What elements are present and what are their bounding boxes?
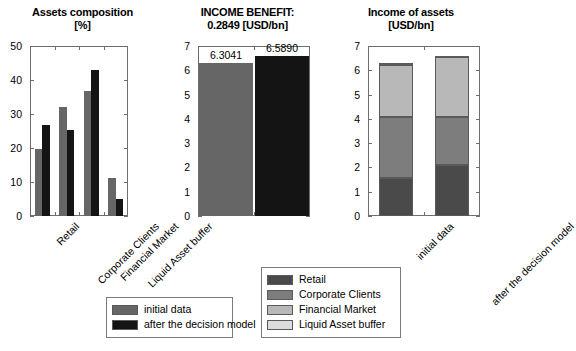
title-line-1: Income of assets	[332, 6, 490, 19]
title-line-2: [USD/bn]	[332, 19, 490, 32]
assets-composition-ytick-label: 0	[16, 210, 26, 222]
assets-composition-xtick-mark	[55, 46, 56, 50]
chart-assets-composition-title: Assets composition [%]	[5, 6, 160, 32]
income-of-assets-xtick-mark	[424, 212, 425, 216]
assets-composition-ytick-mark	[124, 216, 128, 217]
assets-composition-ytick-mark	[124, 148, 128, 149]
income-of-assets-stack-segment	[379, 63, 413, 65]
legend-assets-swatch	[267, 320, 293, 330]
chart-income-benefit-title: INCOME BENEFIT: 0.2849 [USD/bn]	[165, 6, 330, 32]
income-of-assets-ytick-mark	[368, 216, 372, 217]
assets-composition-ytick-mark	[30, 80, 34, 81]
income-of-assets-ytick-mark	[368, 95, 372, 96]
income-of-assets-xtick-mark	[424, 46, 425, 50]
chart-assets-composition: Assets composition [%] 01020304050 Retai…	[0, 0, 165, 300]
title-line-1: Assets composition	[5, 6, 160, 19]
legend-assets-swatch	[267, 275, 293, 285]
income-benefit-ytick-label: 0	[184, 210, 194, 222]
income-of-assets-xtick-label: after the decision model	[489, 220, 576, 307]
income-benefit-ytick-label: 3	[184, 137, 194, 149]
assets-composition-ytick-mark	[124, 182, 128, 183]
income-of-assets-ytick-mark	[476, 143, 480, 144]
income-of-assets-ytick-label: 6	[354, 64, 364, 76]
income-of-assets-stack-segment	[435, 57, 469, 118]
income-of-assets-ytick-label: 7	[354, 40, 364, 52]
income-of-assets-ytick-label: 4	[354, 113, 364, 125]
legend-models-item[interactable]: initial data	[112, 302, 227, 317]
assets-composition-ytick-mark	[30, 182, 34, 183]
legend-assets-swatch	[267, 290, 293, 300]
income-benefit-ytick-label: 5	[184, 89, 194, 101]
income-of-assets-ytick-mark	[476, 46, 480, 47]
assets-composition-ytick-label: 50	[10, 40, 26, 52]
assets-composition-bar	[67, 130, 75, 216]
income-benefit-ytick-mark	[198, 46, 202, 47]
assets-composition-ytick-mark	[30, 148, 34, 149]
income-of-assets-ytick-mark	[476, 70, 480, 71]
income-of-assets-ytick-label: 2	[354, 161, 364, 173]
income-of-assets-ytick-mark	[368, 167, 372, 168]
assets-composition-xtick-mark	[79, 46, 80, 50]
income-of-assets-ytick-mark	[368, 143, 372, 144]
income-of-assets-ytick-label: 3	[354, 137, 364, 149]
legend-assets-item[interactable]: Financial Market	[267, 302, 395, 317]
assets-composition-xtick-mark	[79, 212, 80, 216]
income-benefit-ytick-mark	[198, 216, 202, 217]
income-benefit-xtick-mark	[254, 46, 255, 50]
income-of-assets-ytick-label: 0	[354, 210, 364, 222]
assets-composition-ytick-label: 10	[10, 176, 26, 188]
legend-assets-swatch	[267, 305, 293, 315]
income-of-assets-ytick-mark	[476, 192, 480, 193]
chart-income-of-assets: Income of assets [USD/bn] 01234567 initi…	[330, 0, 494, 300]
assets-composition-ytick-label: 20	[10, 142, 26, 154]
income-of-assets-ytick-mark	[476, 167, 480, 168]
legend-assets-label: Retail	[299, 274, 326, 285]
assets-composition-ytick-label: 40	[10, 74, 26, 86]
legend-assets-item[interactable]: Liquid Asset buffer	[267, 317, 395, 332]
legend-models-swatch	[112, 320, 138, 330]
income-of-assets-stack-segment	[379, 117, 413, 177]
income-of-assets-ytick-mark	[476, 95, 480, 96]
assets-composition-bar	[42, 125, 50, 216]
legend-models-label: initial data	[144, 304, 191, 315]
assets-composition-xtick-label: Retail	[54, 220, 81, 247]
legend-assets-label: Corporate Clients	[299, 289, 381, 300]
income-benefit-bar	[199, 63, 253, 216]
assets-composition-ytick-mark	[30, 46, 34, 47]
income-of-assets-ytick-mark	[476, 119, 480, 120]
income-of-assets-ytick-label: 5	[354, 89, 364, 101]
income-of-assets-ytick-mark	[368, 192, 372, 193]
legend-models-swatch	[112, 305, 138, 315]
title-line-1: INCOME BENEFIT:	[165, 6, 330, 19]
assets-composition-xtick-mark	[104, 46, 105, 50]
income-of-assets-ytick-mark	[368, 46, 372, 47]
assets-composition-ytick-mark	[124, 46, 128, 47]
income-of-assets-ytick-mark	[368, 70, 372, 71]
income-benefit-ytick-mark	[306, 216, 310, 217]
assets-composition-ytick-mark	[30, 216, 34, 217]
income-benefit-ytick-label: 1	[184, 186, 194, 198]
assets-composition-ytick-mark	[30, 114, 34, 115]
legend-asset-classes: RetailCorporate ClientsFinancial MarketL…	[261, 267, 401, 338]
income-of-assets-ytick-mark	[476, 216, 480, 217]
legend-assets-label: Liquid Asset buffer	[299, 319, 385, 330]
legend-models-item[interactable]: after the decision model	[112, 317, 227, 332]
legend-assets-item[interactable]: Retail	[267, 272, 395, 287]
legend-assets-label: Financial Market	[299, 304, 376, 315]
income-benefit-ytick-label: 4	[184, 113, 194, 125]
assets-composition-bar	[35, 149, 43, 216]
income-of-assets-ytick-mark	[368, 119, 372, 120]
income-benefit-bar	[255, 56, 309, 216]
income-benefit-value-label: 6.3041	[210, 49, 242, 61]
assets-composition-ytick-mark	[124, 114, 128, 115]
income-benefit-ytick-label: 7	[184, 40, 194, 52]
title-line-2: 0.2849 [USD/bn]	[165, 19, 330, 32]
income-of-assets-ytick-label: 1	[354, 186, 364, 198]
income-benefit-value-label: 6.5890	[266, 42, 298, 54]
chart-income-of-assets-title: Income of assets [USD/bn]	[332, 6, 490, 32]
legend-models: initial dataafter the decision model	[106, 297, 233, 338]
income-of-assets-stack-segment	[435, 56, 469, 58]
income-of-assets-stack-segment	[379, 178, 413, 216]
legend-assets-item[interactable]: Corporate Clients	[267, 287, 395, 302]
income-benefit-ytick-label: 6	[184, 64, 194, 76]
